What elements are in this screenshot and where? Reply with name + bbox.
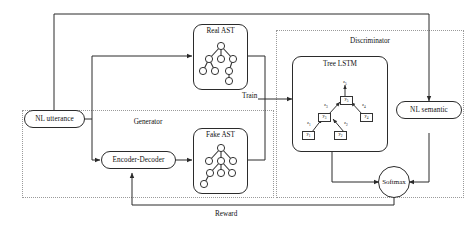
- tree-lstm-node-y1: y1: [302, 131, 315, 140]
- tree-lstm-node-y5-label: y5: [345, 97, 349, 103]
- tree-lstm-edge-z4: z4: [362, 102, 366, 109]
- tree-lstm-node-y4: y4: [360, 113, 373, 122]
- tree-lstm-node-y3: y3: [318, 113, 331, 122]
- tree-lstm-label: Tree LSTM: [292, 60, 388, 68]
- tree-lstm-edge-z3: z3: [324, 102, 328, 109]
- tree-lstm-edge-z1: z1: [307, 120, 311, 127]
- tree-lstm-node-y5: y5: [340, 96, 353, 105]
- tree-lstm-node-y1-label: y1: [307, 132, 311, 138]
- tree-lstm-edge-z2: z2: [344, 120, 348, 127]
- wire-treelstm-to-softmax: [332, 152, 379, 182]
- tree-lstm-edge-z5: z5: [343, 79, 347, 86]
- edge-label-reward: Reward: [214, 210, 238, 218]
- wire-reward-to-encoder-decoder: [132, 173, 394, 205]
- fake-ast-tree: [196, 142, 246, 192]
- node-encoder-decoder[interactable]: Encoder-Decoder: [101, 151, 176, 169]
- node-nl-semantic-label: NL semantic: [410, 106, 448, 114]
- wire-nl-semantic-to-softmax: [409, 133, 429, 182]
- node-softmax[interactable]: Softmax: [378, 166, 410, 198]
- generator-label: Generator: [108, 118, 188, 126]
- tree-lstm-node-y3-label: y3: [323, 114, 327, 120]
- diagram-canvas: Generator Discriminator NL utterance Enc…: [0, 0, 476, 227]
- fake-ast-label: Fake AST: [193, 131, 248, 139]
- tree-lstm-node-y2: y2: [334, 131, 347, 140]
- real-ast-tree: [196, 38, 246, 88]
- tree-lstm-node-y4-label: y4: [365, 114, 369, 120]
- wire-fake-ast-to-train: [248, 99, 265, 160]
- node-nl-semantic[interactable]: NL semantic: [396, 101, 462, 119]
- real-ast-label: Real AST: [193, 27, 248, 35]
- node-nl-utterance-label: NL utterance: [35, 115, 74, 123]
- tree-lstm-node-y2-label: y2: [339, 132, 343, 138]
- edge-label-train: Train: [241, 92, 258, 100]
- node-softmax-label: Softmax: [382, 178, 406, 186]
- node-encoder-decoder-label: Encoder-Decoder: [112, 156, 164, 164]
- discriminator-label: Discriminator: [320, 37, 420, 45]
- node-nl-utterance[interactable]: NL utterance: [24, 110, 85, 128]
